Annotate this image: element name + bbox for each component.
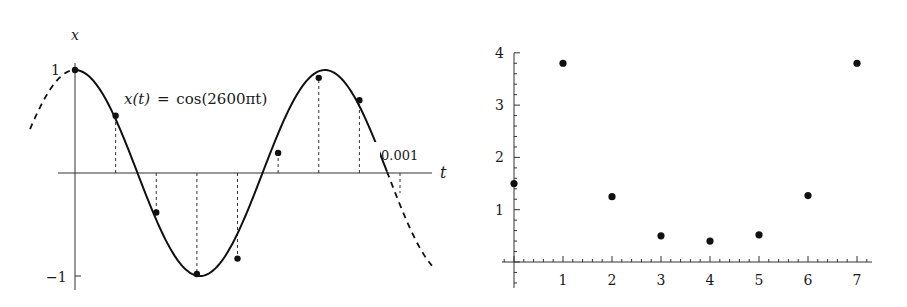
- x-tick-label: 2: [608, 272, 617, 288]
- cosine-signal-plot: x t 1 −1 x(t) = cos(2600πt) 0.001: [30, 27, 447, 290]
- x-tick-label: 4: [706, 272, 715, 288]
- sample-point: [194, 271, 200, 277]
- y-tick-label-minus-one: −1: [46, 269, 67, 285]
- x-tick-label: 5: [755, 272, 764, 288]
- t-end-label: 0.001: [381, 148, 418, 163]
- sample-point: [316, 75, 322, 81]
- scatter-points: [510, 60, 860, 245]
- equation-lhs: x(t): [124, 90, 150, 108]
- cosine-curve-extension-right: [387, 172, 432, 266]
- x-tick-label: 7: [853, 272, 862, 288]
- y-tick-label: 1: [495, 202, 504, 218]
- scatter-point: [559, 60, 566, 67]
- axis-ticks: [504, 53, 867, 283]
- scatter-point: [510, 180, 517, 187]
- y-axis-label: x: [71, 27, 79, 43]
- scatter-point: [755, 231, 762, 238]
- y-tick-label: 3: [495, 97, 504, 113]
- scatter-point: [804, 192, 811, 199]
- equation-equals: =: [157, 90, 170, 108]
- cosine-curve-extension-left: [30, 70, 75, 129]
- scatter-point: [706, 237, 713, 244]
- sample-point: [72, 67, 78, 73]
- equation-label: x(t) = cos(2600πt): [124, 90, 267, 108]
- sample-point: [153, 209, 159, 215]
- y-tick-label: 4: [495, 45, 504, 61]
- x-tick-labels: 1 2 3 4 5 6 7: [559, 272, 862, 288]
- y-tick-label-one: 1: [51, 62, 60, 78]
- sample-point: [275, 150, 281, 156]
- sample-point: [356, 97, 362, 103]
- label-backdrop: [372, 142, 380, 156]
- y-tick-labels: 1 2 3 4: [495, 45, 504, 218]
- scatter-point: [853, 60, 860, 67]
- x-axis-label: t: [440, 163, 447, 182]
- scatter-point: [657, 232, 664, 239]
- figure-canvas: x t 1 −1 x(t) = cos(2600πt) 0.001 1 2 3 …: [0, 0, 907, 307]
- y-tick-label: 2: [495, 149, 504, 165]
- x-tick-label: 6: [804, 272, 813, 288]
- sample-point: [112, 113, 118, 119]
- equation-rhs: cos(2600πt): [176, 90, 267, 108]
- scatter-point: [608, 193, 615, 200]
- x-tick-label: 1: [559, 272, 568, 288]
- x-tick-label: 3: [657, 272, 666, 288]
- sample-magnitude-scatter: 1 2 3 4 5 6 7 1 2 3 4: [495, 45, 872, 288]
- sample-point: [234, 255, 240, 261]
